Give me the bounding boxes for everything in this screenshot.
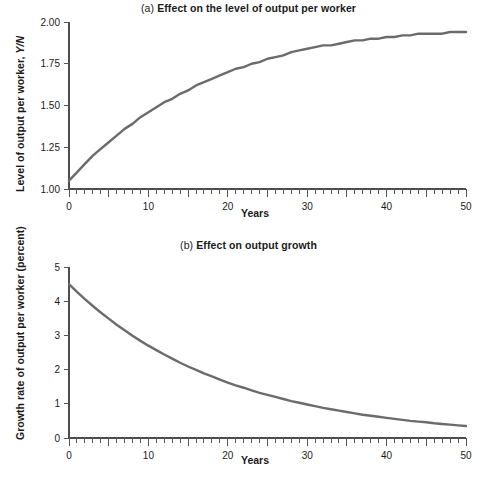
chart-panel-a: (a) Effect on the level of output per wo… xyxy=(0,0,497,232)
y-tick-label: 5 xyxy=(54,262,60,273)
panel-a-plot: 1.001.251.501.752.0001020304050 xyxy=(0,0,497,232)
x-tick-label: 50 xyxy=(460,201,472,212)
panel-a-x-axis-label: Years xyxy=(220,207,290,219)
x-tick-label: 40 xyxy=(381,450,393,461)
y-tick-label: 1.00 xyxy=(41,184,61,195)
y-tick-label: 2 xyxy=(54,364,60,375)
chart-panel-b: (b) Effect on output growth Growth rate … xyxy=(0,232,497,483)
y-tick-label: 1.75 xyxy=(41,58,61,69)
x-tick-label: 30 xyxy=(302,201,314,212)
x-tick-label: 10 xyxy=(143,201,155,212)
data-curve xyxy=(69,284,466,426)
y-tick-label: 0 xyxy=(54,433,60,444)
x-tick-label: 0 xyxy=(66,450,72,461)
y-tick-label: 2.00 xyxy=(41,17,61,28)
panel-b-plot: 01234501020304050 xyxy=(0,232,497,483)
y-tick-label: 4 xyxy=(54,296,60,307)
y-tick-label: 1.25 xyxy=(41,142,61,153)
figure-output-per-worker: (a) Effect on the level of output per wo… xyxy=(0,0,497,483)
y-tick-label: 1.50 xyxy=(41,100,61,111)
data-curve xyxy=(69,32,466,181)
panel-b-x-axis-label: Years xyxy=(220,454,290,466)
x-tick-label: 10 xyxy=(143,450,155,461)
y-tick-label: 1 xyxy=(54,398,60,409)
x-tick-label: 0 xyxy=(66,201,72,212)
x-tick-label: 50 xyxy=(460,450,472,461)
x-tick-label: 40 xyxy=(381,201,393,212)
x-tick-label: 30 xyxy=(302,450,314,461)
y-tick-label: 3 xyxy=(54,330,60,341)
